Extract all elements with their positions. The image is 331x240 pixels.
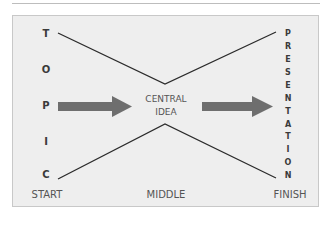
- presentation-letter: P: [285, 30, 291, 38]
- topic-letter-t: T: [43, 29, 50, 39]
- presentation-letter: T: [285, 108, 290, 116]
- presentation-letter: E: [285, 56, 290, 64]
- stage-finish-label: FINISH: [274, 190, 307, 200]
- stage-middle-label: MIDDLE: [147, 190, 186, 200]
- presentation-letter: S: [285, 69, 291, 77]
- presentation-letter: O: [285, 159, 292, 167]
- upper-funnel-line: [58, 32, 276, 84]
- presentation-letter: I: [287, 146, 290, 154]
- central-idea-line1: CENTRAL: [145, 93, 186, 106]
- topic-letter-o: O: [42, 65, 51, 75]
- presentation-letter: R: [285, 43, 291, 51]
- presentation-letter: E: [285, 82, 290, 90]
- central-idea-label: CENTRAL IDEA: [145, 93, 186, 119]
- topic-letter-p: P: [42, 101, 49, 111]
- topic-letter-c: C: [42, 170, 49, 180]
- presentation-letter: T: [285, 133, 290, 141]
- lower-funnel-line: [58, 124, 276, 179]
- presentation-letter: A: [285, 121, 291, 129]
- stage-start-label: START: [32, 190, 63, 200]
- left-arrow: [58, 96, 132, 117]
- right-arrow: [202, 96, 273, 117]
- topic-letter-i: I: [44, 137, 48, 147]
- presentation-letter: N: [285, 172, 292, 180]
- central-idea-line2: IDEA: [145, 106, 186, 119]
- presentation-letter: N: [285, 95, 292, 103]
